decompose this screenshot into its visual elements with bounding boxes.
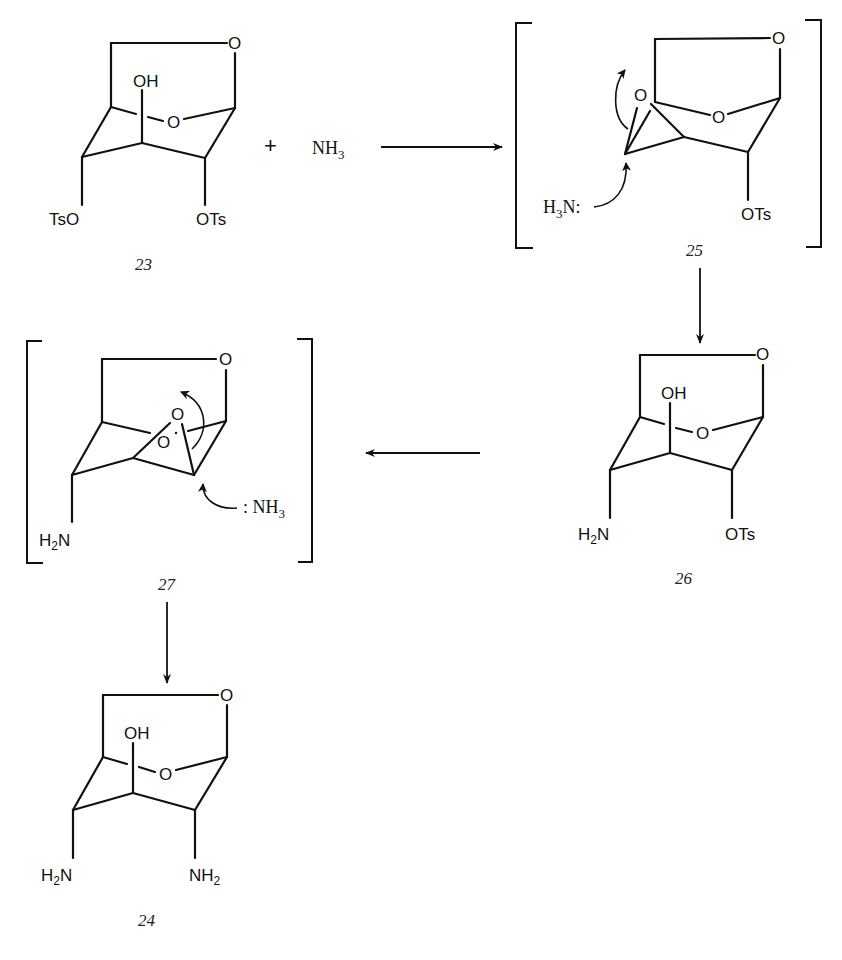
nucleophile-ammonia: H3N: [543,197,581,221]
compound-26: O O OH H2N OTs 26 [578,345,769,588]
hydroxyl-group: OH [133,72,159,91]
amino-group-left: H2N [578,525,609,547]
compound-23: O O OH TsO OTs 23 [49,34,241,274]
epoxide-oxygen: O [634,86,647,105]
ammonia-formula: NH3 [312,138,345,162]
tosyloxy-right: OTs [741,205,771,224]
compound-23-bonds [82,43,235,205]
right-bracket [805,20,821,247]
amino-group-left: H2N [41,866,72,888]
compound-label-26: 26 [675,569,693,588]
ring-oxygen: O [167,113,180,132]
compound-27: O O O H2N : NH3 27 [27,339,312,594]
compound-27-bonds [72,359,226,522]
left-bracket [516,23,533,248]
tosyloxy-right: OTs [196,210,226,229]
ring-oxygen: O [712,108,725,127]
compound-25: O O O OTs H3N: 25 [516,20,821,260]
ring-oxygen: O [159,765,172,784]
amino-group-right: NH2 [189,866,221,888]
curved-arrow-nucleophilic-attack [594,163,626,207]
compound-label-25: 25 [686,241,703,260]
nucleophile-ammonia: : NH3 [243,497,285,521]
bridge-oxygen: O [219,350,232,369]
amino-group-left: H2N [39,531,70,553]
plus-sign: + [264,133,277,158]
bridge-oxygen: O [228,34,241,53]
curved-arrow-epoxide-opening [181,392,204,449]
compound-26-bonds [610,355,763,518]
lone-pair-dot [175,432,177,434]
compound-24-bonds [73,695,227,858]
compound-25-bonds [625,38,780,200]
bridge-oxygen: O [772,29,785,48]
tosyloxy-right: OTs [725,525,755,544]
reagent-ammonia: NH3 [312,138,345,162]
compound-label-23: 23 [135,255,152,274]
bridge-oxygen: O [220,686,233,705]
ring-oxygen: O [696,424,709,443]
compound-label-27: 27 [158,575,177,594]
curved-arrow-nucleophilic-attack [203,484,237,508]
ring-oxygen: O [157,433,170,452]
compound-label-24: 24 [138,911,156,930]
hydroxyl-group: OH [124,724,150,743]
left-bracket [27,341,43,563]
bridge-oxygen: O [756,345,769,364]
epoxide-oxygen: O [171,405,184,424]
compound-24: O O OH H2N NH2 24 [41,686,233,930]
reaction-scheme: O O OH TsO OTs 23 + NH3 O O O [0,0,842,960]
right-bracket [297,339,312,562]
curved-arrow-epoxide-opening [616,70,628,129]
hydroxyl-group: OH [661,384,687,403]
tosyloxy-left: TsO [49,210,79,229]
